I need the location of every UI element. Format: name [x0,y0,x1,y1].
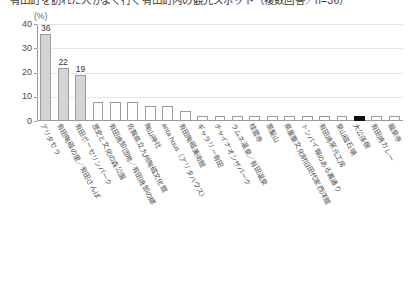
bar[interactable] [337,116,348,121]
bar-slot[interactable]: 36 [40,24,51,121]
chart-title-strip: 有田町を訪れた人がよく行く有田町内の観光スポット（複数回答／n=36） [0,0,408,9]
bar[interactable] [267,116,278,121]
x-axis-label: 大公孫樹 [352,122,371,150]
x-axis-label: 龍泉寺 [387,122,403,144]
bar-value-label: 36 [41,24,50,33]
bar-slot[interactable] [215,24,226,121]
bar[interactable] [302,116,313,121]
bar-slot[interactable]: 19 [75,24,86,121]
y-axis-unit-label: (%) [34,11,47,21]
bar-slot[interactable] [197,24,208,121]
bar[interactable] [371,116,382,121]
y-axis-tick-label: 10 [10,92,32,101]
bar[interactable] [180,111,191,121]
bar-slot[interactable] [145,24,156,121]
bar[interactable] [284,116,295,121]
bar[interactable] [127,102,138,121]
bar-slot[interactable] [267,24,278,121]
bar-slot[interactable] [354,24,365,121]
bar-series: 362219 [37,24,403,121]
bar[interactable] [389,116,400,121]
bar-slot[interactable] [110,24,121,121]
bar[interactable] [93,102,104,121]
bar-value-label: 19 [76,65,85,74]
bar[interactable] [58,68,69,121]
bar-slot[interactable] [180,24,191,121]
y-axis-tick-label: 0 [10,117,32,126]
x-axis-labels: アリタセラ有田陶磁の里／有田さんぽ有田ポーセリンパーク歴史と文化の森公園有田焼卸… [37,122,403,272]
bar-slot[interactable] [249,24,260,121]
page-title: 有田町を訪れた人がよく行く有田町内の観光スポット（複数回答／n=36） [10,0,350,7]
bar-slot[interactable] [389,24,400,121]
bar[interactable] [145,106,156,121]
bar[interactable] [319,116,330,121]
bar-value-label: 22 [58,58,67,67]
bar[interactable] [354,116,365,121]
bar-slot[interactable] [371,24,382,121]
bar[interactable] [75,75,86,121]
y-axis-tick-label: 30 [10,44,32,53]
bar-slot[interactable] [232,24,243,121]
y-axis-tick-label: 40 [10,20,32,29]
x-axis-label: 陶山神社 [143,122,162,150]
bar-slot[interactable] [337,24,348,121]
bar[interactable] [110,102,121,121]
y-axis-tick-label: 20 [10,68,32,77]
bar-chart-figure: 有田町を訪れた人がよく行く有田町内の観光スポット（複数回答／n=36） (%) … [0,0,408,284]
bar[interactable] [232,116,243,121]
bar-slot[interactable] [127,24,138,121]
bar-slot[interactable] [93,24,104,121]
bar-slot[interactable] [162,24,173,121]
bar-slot[interactable] [302,24,313,121]
bar[interactable] [197,116,208,121]
plot-area: 010203040 362219 [37,24,403,121]
bar-slot[interactable] [284,24,295,121]
x-axis-label: 桂雲寺 [248,122,264,144]
bar[interactable] [162,106,173,121]
bar[interactable] [215,116,226,121]
x-axis-label: 黒髪山 [265,122,281,144]
bar-slot[interactable] [319,24,330,121]
bar[interactable] [249,116,260,121]
bar-slot[interactable]: 22 [58,24,69,121]
bar[interactable] [40,34,51,121]
